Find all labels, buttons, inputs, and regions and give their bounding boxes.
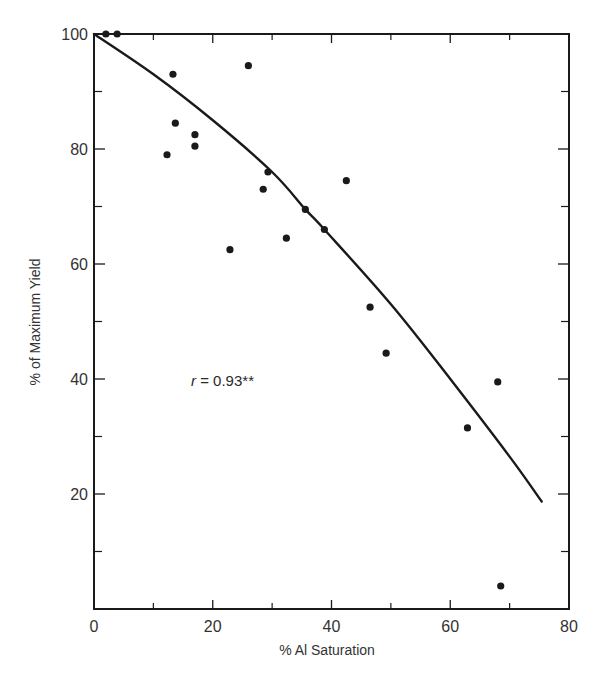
x-axis-title: % Al Saturation xyxy=(279,642,375,658)
data-point xyxy=(169,71,176,78)
regression-curve xyxy=(94,34,542,502)
data-point xyxy=(191,143,198,150)
data-point xyxy=(264,168,271,175)
r-value: = 0.93** xyxy=(196,372,254,389)
data-point xyxy=(321,226,328,233)
data-point xyxy=(494,378,501,385)
data-point xyxy=(302,206,309,213)
data-point xyxy=(245,62,252,69)
data-point xyxy=(464,424,471,431)
data-point xyxy=(226,246,233,253)
data-point xyxy=(163,151,170,158)
plot-border xyxy=(94,34,569,609)
data-point xyxy=(383,350,390,357)
x-tick-label: 0 xyxy=(90,618,99,635)
data-point xyxy=(114,30,121,37)
y-tick-label: 60 xyxy=(70,256,88,273)
y-axis-title: % of Maximum Yield xyxy=(27,259,43,386)
correlation-annotation: r = 0.93** xyxy=(191,372,254,389)
x-tick-label: 20 xyxy=(204,618,222,635)
data-point xyxy=(191,131,198,138)
plot-frame xyxy=(94,34,569,609)
y-tick-label: 80 xyxy=(70,141,88,158)
data-point xyxy=(366,304,373,311)
data-point xyxy=(102,30,109,37)
data-point xyxy=(260,186,267,193)
y-tick-label: 20 xyxy=(70,486,88,503)
axis-tick-labels: 02040608020406080100 xyxy=(61,26,578,635)
data-point xyxy=(343,177,350,184)
scatter-chart: 02040608020406080100 % Al Saturation % o… xyxy=(0,0,611,681)
data-point xyxy=(497,582,504,589)
data-point xyxy=(172,120,179,127)
data-points xyxy=(102,30,504,589)
x-tick-label: 40 xyxy=(323,618,341,635)
y-tick-label: 100 xyxy=(61,26,88,43)
fitted-curve xyxy=(94,34,542,502)
x-tick-label: 60 xyxy=(441,618,459,635)
x-tick-label: 80 xyxy=(560,618,578,635)
y-tick-label: 40 xyxy=(70,371,88,388)
axis-ticks xyxy=(94,34,569,609)
data-point xyxy=(283,235,290,242)
